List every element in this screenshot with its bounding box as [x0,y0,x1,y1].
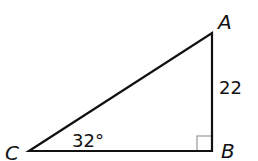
vertex-label-b: B [221,139,235,161]
vertex-label-a: A [216,10,232,34]
angle-c-label: 32° [72,130,104,151]
triangle-abc [29,33,212,151]
triangle-diagram: A B C 32° 22 [0,0,258,161]
right-angle-marker [197,136,212,151]
vertex-label-c: C [5,141,19,161]
side-ab-length-label: 22 [219,77,242,98]
